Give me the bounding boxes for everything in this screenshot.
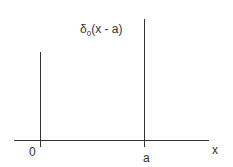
origin-label: 0 xyxy=(29,146,36,158)
delta-function-label: δ0(x - a) xyxy=(80,23,122,40)
delta-spike-at-a xyxy=(144,19,145,147)
origin-tick-line xyxy=(40,52,41,147)
x-axis xyxy=(14,140,209,141)
x-axis-label: x xyxy=(212,144,218,156)
a-label: a xyxy=(143,152,150,164)
delta-symbol: δ xyxy=(80,22,87,36)
delta-argument: (x - a) xyxy=(91,22,122,36)
